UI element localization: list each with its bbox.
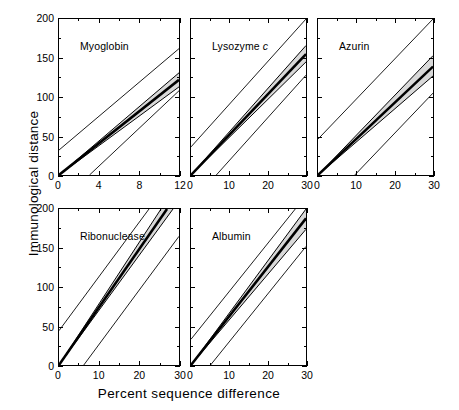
y-tick-label: 200 bbox=[36, 12, 54, 24]
x-tick bbox=[307, 171, 308, 176]
x-tick-label: 0 bbox=[314, 179, 320, 191]
x-tick-label: 30 bbox=[301, 369, 313, 381]
x-tick-label: 0 bbox=[55, 369, 61, 381]
y-tick bbox=[317, 176, 322, 177]
x-tick bbox=[434, 171, 435, 176]
x-tick-label: 30 bbox=[174, 369, 186, 381]
x-tick-label: 10 bbox=[223, 179, 235, 191]
panel-title-text: Albumin bbox=[212, 230, 251, 242]
x-tick-label: 20 bbox=[389, 179, 401, 191]
x-tick bbox=[307, 208, 308, 213]
panel-ribonuclease: 0102030050100150200Ribonuclease bbox=[58, 208, 180, 366]
x-tick-label: 10 bbox=[350, 179, 362, 191]
x-tick bbox=[180, 361, 181, 366]
panel-title-text: Ribonuclease bbox=[80, 230, 145, 242]
panel-title: Ribonuclease bbox=[80, 230, 145, 242]
x-tick bbox=[307, 18, 308, 23]
panel-title: Myoglobin bbox=[80, 40, 129, 52]
y-tick bbox=[190, 176, 195, 177]
panel-myoglobin: 04812050100150200Myoglobin bbox=[58, 18, 180, 176]
x-tick-label: 4 bbox=[96, 179, 102, 191]
plot-area bbox=[318, 19, 433, 175]
panel-albumin: 0102030Albumin bbox=[190, 208, 307, 366]
series-line bbox=[191, 209, 295, 339]
series-line bbox=[191, 229, 306, 365]
y-tick bbox=[302, 366, 307, 367]
x-tick bbox=[434, 18, 435, 23]
panel-title-italic-suffix: c bbox=[263, 40, 268, 52]
x-tick bbox=[180, 171, 181, 176]
y-tick-label: 100 bbox=[36, 91, 54, 103]
y-tick bbox=[175, 366, 180, 367]
panel-azurin: 0102030Azurin bbox=[317, 18, 434, 176]
y-tick bbox=[302, 176, 307, 177]
figure-immunological-distance: Immunological distance Percent sequence … bbox=[0, 0, 459, 410]
x-tick bbox=[180, 18, 181, 23]
y-tick-label: 150 bbox=[36, 52, 54, 64]
x-tick-label: 0 bbox=[55, 179, 61, 191]
y-tick bbox=[190, 366, 195, 367]
series-line bbox=[59, 80, 179, 175]
panel-title-text: Azurin bbox=[339, 40, 369, 52]
series-line bbox=[59, 209, 149, 331]
y-tick-label: 0 bbox=[48, 360, 54, 372]
y-tick bbox=[58, 366, 63, 367]
y-tick-label: 50 bbox=[42, 321, 54, 333]
y-tick bbox=[58, 176, 63, 177]
x-tick-label: 30 bbox=[301, 179, 313, 191]
x-tick-label: 20 bbox=[262, 179, 274, 191]
y-tick bbox=[175, 176, 180, 177]
series-line bbox=[191, 62, 306, 175]
y-tick-label: 50 bbox=[42, 131, 54, 143]
x-tick-label: 20 bbox=[262, 369, 274, 381]
x-tick-label: 0 bbox=[187, 369, 193, 381]
series-line bbox=[90, 91, 179, 175]
series-line bbox=[211, 246, 306, 365]
x-tick bbox=[180, 208, 181, 213]
panel-title: Albumin bbox=[212, 230, 251, 242]
x-tick-label: 8 bbox=[136, 179, 142, 191]
y-tick-label: 150 bbox=[36, 242, 54, 254]
series-line bbox=[216, 75, 306, 175]
y-tick bbox=[429, 176, 434, 177]
x-tick-label: 30 bbox=[428, 179, 440, 191]
x-tick-label: 10 bbox=[93, 369, 105, 381]
series-line bbox=[59, 87, 179, 175]
x-tick-label: 20 bbox=[133, 369, 145, 381]
x-tick-label: 12 bbox=[174, 179, 186, 191]
x-axis-title: Percent sequence difference bbox=[34, 386, 344, 401]
series-line bbox=[191, 54, 306, 175]
y-tick-label: 100 bbox=[36, 281, 54, 293]
series-line bbox=[191, 19, 306, 147]
panel-title: Lysozyme c bbox=[212, 40, 268, 52]
y-tick-label: 0 bbox=[48, 170, 54, 182]
x-tick-label: 0 bbox=[187, 179, 193, 191]
series-line bbox=[318, 76, 433, 175]
plot-frame bbox=[317, 18, 434, 176]
panel-lysozyme-c: 0102030Lysozyme c bbox=[190, 18, 307, 176]
x-tick-label: 10 bbox=[223, 369, 235, 381]
panel-title-text: Myoglobin bbox=[80, 40, 129, 52]
panel-title-text: Lysozyme bbox=[212, 40, 263, 52]
x-tick bbox=[307, 361, 308, 366]
panel-title: Azurin bbox=[339, 40, 369, 52]
y-tick-label: 200 bbox=[36, 202, 54, 214]
